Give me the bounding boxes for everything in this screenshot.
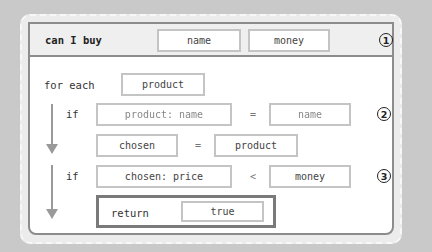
function-keyword: can I buy xyxy=(45,35,102,46)
step-marker-1: 1 xyxy=(379,33,393,47)
less-than-operator: < xyxy=(250,171,256,182)
assign-value-slot[interactable]: product xyxy=(214,134,298,157)
if-keyword: if xyxy=(66,109,79,120)
condition-left-slot[interactable]: chosen: price xyxy=(96,165,232,188)
assign-operator: = xyxy=(195,140,201,151)
return-value-slot[interactable]: true xyxy=(181,201,264,222)
equals-operator: = xyxy=(250,109,256,120)
for-each-keyword: for each xyxy=(44,80,95,91)
down-arrow-icon xyxy=(51,165,53,217)
function-header: can I buy name money 1 xyxy=(30,24,392,57)
step-marker-3: 3 xyxy=(377,169,391,183)
param-name-slot[interactable]: name xyxy=(157,29,241,52)
down-arrow-icon xyxy=(51,104,53,152)
condition-right-slot[interactable]: name xyxy=(269,103,351,126)
condition-right-slot[interactable]: money xyxy=(269,165,351,188)
param-money-slot[interactable]: money xyxy=(248,29,330,52)
if-keyword: if xyxy=(66,171,79,182)
assign-target-slot[interactable]: chosen xyxy=(96,134,178,157)
return-keyword: return xyxy=(111,208,149,219)
function-block: can I buy name money 1 for each product … xyxy=(28,22,394,235)
loop-variable-slot[interactable]: product xyxy=(121,73,205,96)
step-marker-2: 2 xyxy=(377,107,391,121)
return-block: return true xyxy=(96,195,276,228)
condition-left-slot[interactable]: product: name xyxy=(96,103,232,126)
